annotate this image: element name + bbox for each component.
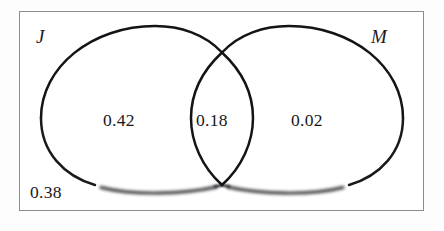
venn-diagram-figure: J M 0.42 0.18 0.02 0.38 [0,0,444,231]
probability-j-only: 0.42 [103,110,135,131]
set-j-left-lower-arc [41,118,95,185]
set-m-right-lower-arc [349,118,403,185]
probability-m-only: 0.02 [291,110,323,131]
set-j-upper-arc [41,26,222,118]
set-j-bottom-arc-faded [101,187,216,193]
set-label-m: M [371,26,387,48]
probability-intersection: 0.18 [196,110,228,131]
set-label-j: J [36,26,45,48]
set-m-bottom-arc-faded [228,187,343,193]
probability-neither: 0.38 [30,182,62,203]
